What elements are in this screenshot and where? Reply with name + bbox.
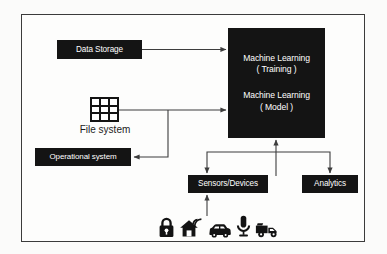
ml-model-line2: ( Model ) [243,102,310,114]
node-operational-system-label: Operational system [49,152,116,161]
smart-home-icon [179,216,203,238]
node-file-system-label: File system [62,124,148,135]
ml-training-group: Machine Learning ( Training ) [243,53,310,76]
ml-training-line2: ( Training ) [243,64,310,76]
node-sensors-devices-label: Sensors/Devices [198,179,258,188]
ml-model-group: Machine Learning ( Model ) [243,90,310,113]
node-machine-learning[interactable]: Machine Learning ( Training ) Machine Le… [228,28,325,138]
node-analytics-label: Analytics [314,179,346,188]
padlock-icon [158,217,175,238]
ml-model-line1: Machine Learning [243,90,310,102]
truck-icon [255,221,280,238]
node-analytics[interactable]: Analytics [302,175,358,193]
grid-3x3-icon [90,97,119,122]
diagram-canvas: Data Storage Machine Learning ( Training… [0,0,387,254]
node-data-storage[interactable]: Data Storage [57,40,142,59]
car-icon [208,223,232,238]
microphone-icon [236,215,251,238]
node-sensors-devices[interactable]: Sensors/Devices [188,175,268,193]
ml-training-line1: Machine Learning [243,53,310,65]
node-data-storage-label: Data Storage [76,45,123,54]
device-icon-strip [158,206,280,238]
node-operational-system[interactable]: Operational system [35,148,131,166]
